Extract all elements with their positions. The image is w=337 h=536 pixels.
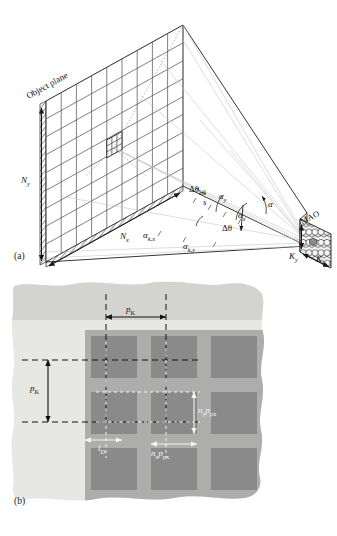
label-alpha-x: αx (238, 211, 246, 220)
pixel-array (91, 336, 257, 490)
panel-a-caption: (a) (14, 251, 25, 261)
label-alpha: α (268, 200, 273, 209)
label-alpha-kx: αk,x (143, 231, 155, 240)
label-nx-ppx: nxppx (151, 449, 169, 458)
object-plane-left-rail (40, 101, 46, 265)
panel-a-drawing (0, 0, 337, 272)
panel-a: Object plane Ny Nx α αx αy αk,x αk,y Δθ … (0, 0, 337, 272)
figure-root: Object plane Ny Nx α αx αy αk,x αk,y Δθ … (0, 0, 337, 536)
label-alpha-ky: αk,y (183, 242, 195, 251)
label-k-x: Kx (316, 255, 325, 264)
label-ld: lD (98, 444, 105, 453)
label-n-y: Ny (21, 176, 30, 185)
label-pk-horizontal: pK (126, 305, 135, 314)
label-k-y: Ky (289, 252, 298, 261)
label-ny-ppx: nyppx (198, 406, 216, 415)
label-n-x: Nx (120, 232, 129, 241)
label-s: s (203, 198, 207, 207)
label-pk-vertical: pK (30, 384, 39, 393)
panel-b: pK pK nyppx nxppx lD (b) (0, 272, 337, 536)
label-delta-theta-eff: Δθeff (189, 185, 206, 194)
panel-b-caption: (b) (14, 496, 25, 506)
label-alpha-y: αy (219, 192, 227, 201)
mao-highlighted-cell (310, 238, 317, 245)
top-band (0, 282, 337, 320)
panel-b-drawing (0, 272, 337, 536)
label-delta-theta: Δθ (222, 224, 232, 233)
substrate (0, 272, 337, 536)
